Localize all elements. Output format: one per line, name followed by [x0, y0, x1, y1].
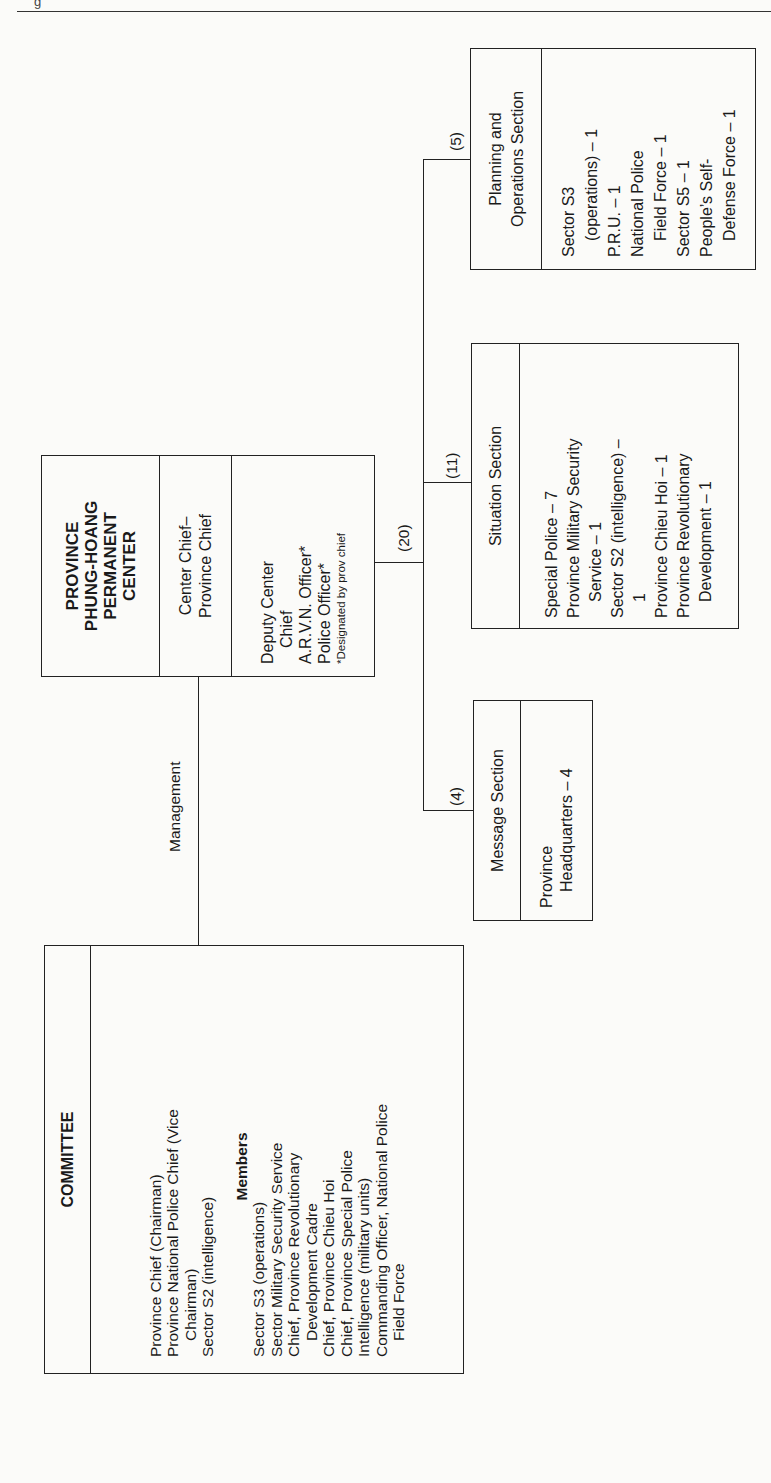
situation-staff: 1 — [629, 344, 651, 618]
committee-member: Field Force — [390, 946, 408, 1357]
committee-member: Chief, Province Chieu Hoi — [320, 946, 338, 1357]
center-staff-count: (20) — [395, 524, 413, 552]
planning-title-line: Operations Section — [507, 91, 529, 227]
planning-staff-panel: Sector S3 (operations) – 1 P.R.U. – 1 Na… — [542, 49, 755, 269]
committee-member: Development Cadre — [303, 946, 321, 1357]
planning-staff: Field Force – 1 — [649, 49, 672, 257]
center-title-line: PERMANENT — [101, 512, 120, 620]
planning-branch — [423, 159, 471, 160]
message-count: (4) — [447, 787, 465, 806]
message-staff: Headquarters – 4 — [557, 701, 577, 908]
center-chief-line: Center Chief– — [176, 517, 196, 616]
committee-box: COMMITTEE Province Chief (Chairman) Prov… — [44, 945, 464, 1374]
planning-staff: Sector S5 – 1 — [672, 49, 695, 257]
message-staff-panel: Province Headquarters – 4 — [521, 701, 592, 920]
situation-title-panel: Situation Section — [472, 344, 520, 628]
situation-staff: Development – 1 — [695, 344, 717, 618]
situation-count: (11) — [443, 453, 461, 479]
planning-title-line: Planning and — [485, 112, 507, 205]
deputy-line: A.R.V.N. Officer* — [296, 456, 315, 664]
center-box: PROVINCE PHUNG-HOANG PERMANENT CENTER Ce… — [41, 455, 375, 677]
situation-title: Situation Section — [487, 426, 505, 546]
center-title-line: CENTER — [120, 531, 139, 601]
planning-section-box: Planning and Operations Section Sector S… — [470, 48, 756, 270]
header-rule — [17, 11, 771, 12]
center-title-line: PHUNG-HOANG — [82, 501, 101, 631]
center-chief-panel: Center Chief– Province Chief — [160, 456, 232, 676]
deputy-line: Chief — [277, 456, 296, 664]
message-section-box: Message Section Province Headquarters – … — [473, 700, 593, 921]
committee-member: Commanding Officer, National Police — [373, 946, 391, 1357]
committee-body-panel: Province Chief (Chairman) Province Natio… — [91, 946, 463, 1373]
sections-trunk — [423, 159, 424, 811]
message-title-panel: Message Section — [474, 701, 521, 920]
committee-title: COMMITTEE — [59, 1112, 77, 1208]
planning-staff: National Police — [626, 49, 649, 257]
situation-staff: Province Revolutionary — [673, 344, 695, 618]
planning-staff: People’s Self- — [695, 49, 718, 257]
message-staff: Province — [537, 701, 557, 908]
page-header-fragment: g — [34, 0, 41, 9]
committee-member: Sector S3 (operations) — [250, 946, 268, 1357]
committee-member: Chief, Province Special Police — [338, 946, 356, 1357]
planning-staff: (operations) – 1 — [580, 49, 603, 257]
management-label: Management — [166, 762, 184, 852]
situation-staff: Province Military Security — [563, 344, 585, 618]
center-footnote: *Designated by prov chief — [334, 456, 348, 664]
situation-staff: Special Police – 7 — [541, 344, 563, 618]
center-chief-line: Province Chief — [196, 514, 216, 618]
planning-staff: P.R.U. – 1 — [603, 49, 626, 257]
center-to-trunk-connector — [374, 562, 424, 563]
center-title-line: PROVINCE — [63, 522, 82, 611]
management-connector — [198, 676, 199, 946]
planning-staff: Sector S3 — [557, 49, 580, 257]
committee-leader: Sector S2 (intelligence) — [199, 946, 217, 1357]
center-title-panel: PROVINCE PHUNG-HOANG PERMANENT CENTER — [42, 456, 160, 676]
committee-member: Intelligence (military units) — [355, 946, 373, 1357]
situation-section-box: Situation Section Special Police – 7 Pro… — [471, 343, 739, 629]
planning-count: (5) — [447, 132, 465, 151]
committee-member: Sector Military Security Service — [268, 946, 286, 1357]
situation-staff: Province Chieu Hoi – 1 — [651, 344, 673, 618]
situation-branch — [423, 482, 472, 483]
committee-leader: Province Chief (Chairman) — [147, 946, 165, 1357]
deputy-line: Deputy Center — [258, 456, 277, 664]
committee-leader: Chairman) — [182, 946, 200, 1357]
situation-staff: Service – 1 — [585, 344, 607, 618]
message-title: Message Section — [489, 749, 507, 872]
committee-leader: Province National Police Chief (Vice — [164, 946, 182, 1357]
committee-title-panel: COMMITTEE — [45, 946, 91, 1373]
center-deputy-panel: Deputy Center Chief A.R.V.N. Officer* Po… — [232, 456, 374, 676]
planning-staff: Defense Force – 1 — [718, 49, 741, 257]
situation-staff-panel: Special Police – 7 Province Military Sec… — [520, 344, 738, 628]
planning-title-panel: Planning and Operations Section — [471, 49, 542, 269]
members-heading: Members — [233, 946, 251, 1357]
deputy-line: Police Officer* — [315, 456, 334, 664]
message-branch — [423, 810, 474, 811]
committee-member: Chief, Province Revolutionary — [285, 946, 303, 1357]
situation-staff: Sector S2 (intelligence) – — [607, 344, 629, 618]
